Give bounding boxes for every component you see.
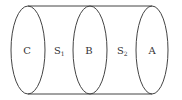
label-b: B: [85, 45, 92, 56]
label-a: A: [147, 45, 156, 56]
label-c: C: [23, 45, 31, 56]
cylinder-diagram: C B A S1 S2: [0, 0, 182, 100]
label-s1: S1: [54, 45, 65, 57]
label-s2: S2: [117, 45, 128, 57]
